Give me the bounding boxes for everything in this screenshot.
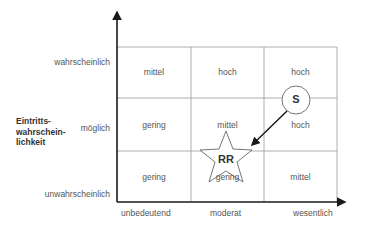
y-axis-title-line: wahrschein- bbox=[16, 127, 66, 138]
matrix-cell: hoch bbox=[191, 67, 264, 77]
matrix-cell: hoch bbox=[264, 67, 337, 77]
y-level-likely: wahrscheinlich bbox=[54, 57, 110, 67]
y-axis-title-line: Eintritts- bbox=[16, 116, 66, 127]
matrix-cell: mittel bbox=[191, 120, 264, 130]
y-level-unlikely: unwahrscheinlich bbox=[45, 189, 110, 199]
x-level-significant: wesentlich bbox=[293, 208, 333, 218]
start-marker-label: S bbox=[282, 93, 310, 105]
matrix-cell: gering bbox=[117, 120, 191, 130]
risk-matrix-diagram: Eintritts- wahrschein- lichkeit wahrsche… bbox=[0, 0, 366, 228]
matrix-cell: gering bbox=[117, 172, 191, 182]
matrix-cell: hoch bbox=[264, 120, 337, 130]
matrix-cell: mittel bbox=[117, 67, 191, 77]
y-level-possible: möglich bbox=[81, 123, 110, 133]
y-axis-title-line: lichkeit bbox=[16, 137, 66, 148]
matrix-cell: gering bbox=[191, 172, 264, 182]
x-level-insignificant: unbedeutend bbox=[121, 208, 171, 218]
y-axis-title: Eintritts- wahrschein- lichkeit bbox=[16, 116, 66, 148]
result-marker-label: RR bbox=[206, 153, 246, 165]
matrix-cell: mittel bbox=[264, 172, 337, 182]
x-level-moderate: moderat bbox=[210, 208, 241, 218]
